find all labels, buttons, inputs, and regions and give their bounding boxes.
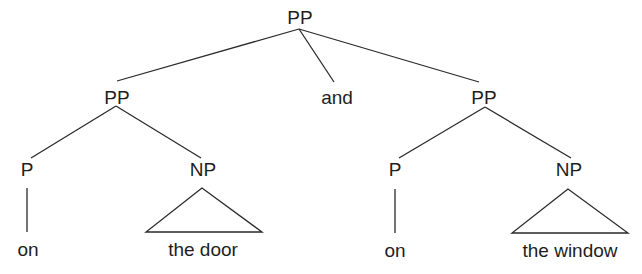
leaf-the-window: the window bbox=[522, 240, 617, 261]
leaf-left-on: on bbox=[17, 239, 38, 260]
edge-right-pp-np bbox=[485, 107, 571, 158]
node-right-np: NP bbox=[556, 159, 582, 180]
triangle-right-np bbox=[512, 189, 628, 233]
node-root-pp: PP bbox=[287, 7, 312, 28]
edge-left-pp-p bbox=[31, 106, 116, 158]
edge-right-pp-p bbox=[399, 107, 485, 158]
edge-root-right-pp bbox=[299, 29, 479, 82]
syntax-tree-diagram: PP PP and PP P NP P NP on the door on th… bbox=[0, 0, 642, 274]
edge-root-and bbox=[299, 29, 334, 82]
node-left-pp: PP bbox=[104, 87, 129, 108]
leaf-right-on: on bbox=[384, 240, 405, 261]
node-right-p: P bbox=[389, 159, 402, 180]
node-left-p: P bbox=[21, 159, 34, 180]
node-left-np: NP bbox=[190, 159, 216, 180]
triangle-left-np bbox=[146, 188, 262, 232]
leaf-the-door: the door bbox=[168, 239, 238, 260]
tree-edges bbox=[27, 29, 628, 233]
edge-root-left-pp bbox=[117, 29, 299, 81]
node-right-pp: PP bbox=[471, 87, 496, 108]
edge-left-pp-np bbox=[116, 106, 201, 158]
node-conjunction-and: and bbox=[321, 87, 353, 108]
tree-labels: PP PP and PP P NP P NP on the door on th… bbox=[17, 7, 617, 261]
